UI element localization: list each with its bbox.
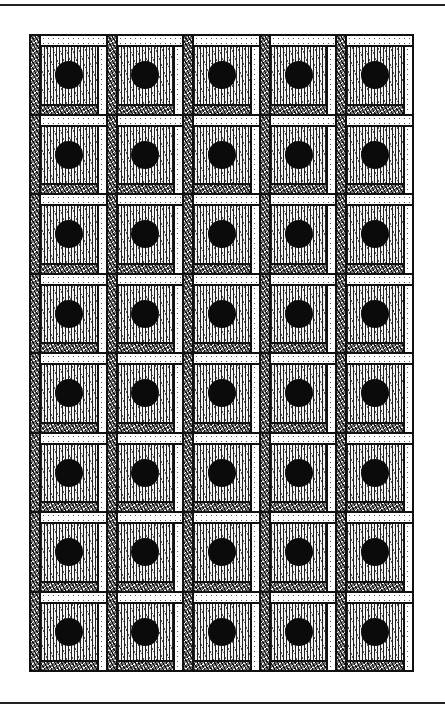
block-center: [40, 364, 98, 423]
dot-icon: [131, 141, 159, 169]
light-strip-top: [40, 433, 107, 444]
dark-strip-left: [260, 35, 270, 115]
dark-strip-bottom: [117, 105, 175, 115]
dark-strip-left: [107, 194, 117, 274]
quilt-block: [260, 512, 337, 592]
block-center: [40, 46, 98, 105]
block-center: [117, 126, 175, 185]
light-strip-right: [174, 364, 183, 433]
dot-icon: [285, 538, 313, 566]
dark-strip-bottom: [40, 423, 98, 433]
block-center: [346, 444, 404, 503]
dot-icon: [208, 61, 236, 89]
quilt-block: [30, 194, 107, 274]
dark-strip-left: [107, 592, 117, 672]
light-strip-top: [117, 512, 184, 523]
block-center: [270, 285, 328, 344]
light-strip-right: [251, 364, 260, 433]
light-strip-right: [404, 444, 413, 513]
block-center: [346, 285, 404, 344]
dark-strip-left: [260, 433, 270, 513]
light-strip-right: [98, 523, 107, 592]
dot-icon: [285, 61, 313, 89]
light-strip-right: [174, 285, 183, 354]
light-strip-right: [251, 46, 260, 115]
light-strip-top: [346, 194, 413, 205]
quilt-block: [183, 274, 260, 354]
block-center: [193, 126, 251, 185]
light-strip-right: [404, 523, 413, 592]
block-center: [193, 46, 251, 105]
light-strip-right: [327, 126, 336, 195]
light-strip-top: [40, 194, 107, 205]
dark-strip-left: [30, 433, 40, 513]
light-strip-right: [98, 285, 107, 354]
quilt-block: [336, 274, 413, 354]
light-strip-right: [174, 205, 183, 274]
dark-strip-bottom: [346, 184, 404, 194]
block-center: [346, 603, 404, 662]
dark-strip-bottom: [346, 661, 404, 671]
light-strip-top: [346, 274, 413, 285]
dark-strip-bottom: [270, 184, 328, 194]
light-strip-top: [40, 274, 107, 285]
light-strip-top: [117, 115, 184, 126]
quilt-block: [260, 274, 337, 354]
dot-icon: [285, 618, 313, 646]
dot-icon: [208, 141, 236, 169]
light-strip-top: [193, 592, 260, 603]
light-strip-right: [327, 46, 336, 115]
light-strip-top: [193, 115, 260, 126]
quilt-block: [183, 353, 260, 433]
dark-strip-left: [107, 512, 117, 592]
dot-icon: [131, 379, 159, 407]
dark-strip-left: [260, 115, 270, 195]
dot-icon: [285, 300, 313, 328]
quilt-block: [30, 115, 107, 195]
dark-strip-left: [30, 592, 40, 672]
dark-strip-bottom: [117, 264, 175, 274]
dark-strip-bottom: [270, 582, 328, 592]
dark-strip-left: [260, 592, 270, 672]
dark-strip-left: [336, 433, 346, 513]
dot-icon: [208, 459, 236, 487]
quilt-block: [107, 433, 184, 513]
light-strip-right: [98, 603, 107, 672]
quilt-block: [183, 433, 260, 513]
dot-icon: [131, 300, 159, 328]
block-center: [270, 126, 328, 185]
dark-strip-bottom: [346, 423, 404, 433]
quilt-block: [107, 274, 184, 354]
light-strip-top: [270, 194, 337, 205]
dot-icon: [131, 61, 159, 89]
dark-strip-bottom: [270, 105, 328, 115]
quilt-block: [30, 512, 107, 592]
quilt-block: [260, 592, 337, 672]
dark-strip-bottom: [193, 343, 251, 353]
light-strip-top: [40, 592, 107, 603]
dark-strip-bottom: [117, 423, 175, 433]
dark-strip-bottom: [193, 661, 251, 671]
dark-strip-bottom: [346, 264, 404, 274]
light-strip-right: [174, 46, 183, 115]
dark-strip-left: [30, 194, 40, 274]
dark-strip-bottom: [193, 105, 251, 115]
block-center: [270, 523, 328, 582]
light-strip-right: [404, 126, 413, 195]
light-strip-right: [174, 444, 183, 513]
dot-icon: [55, 141, 83, 169]
dark-strip-left: [336, 512, 346, 592]
quilt-block: [183, 512, 260, 592]
dark-strip-bottom: [270, 423, 328, 433]
dark-strip-bottom: [117, 661, 175, 671]
dark-strip-bottom: [346, 105, 404, 115]
quilt-block: [30, 592, 107, 672]
dark-strip-bottom: [117, 502, 175, 512]
dot-icon: [208, 220, 236, 248]
dark-strip-bottom: [40, 184, 98, 194]
quilt-block: [336, 512, 413, 592]
light-strip-top: [346, 353, 413, 364]
quilt-block: [107, 194, 184, 274]
dot-icon: [131, 459, 159, 487]
dark-strip-left: [30, 35, 40, 115]
